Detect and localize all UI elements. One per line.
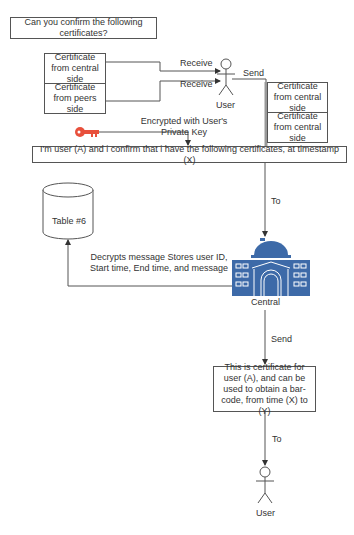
central-building-icon [232, 238, 310, 296]
bottom-user-label: User [256, 508, 275, 519]
certificate-label: Certificate from central side [268, 81, 327, 114]
top-user-label: User [216, 100, 235, 111]
send-label-top: Send [243, 68, 264, 79]
certificate-text: This is certificate for user (A), and ca… [217, 362, 312, 417]
left-certificate-central: Certificate from central side [44, 53, 106, 84]
certificate-label: Certificate from central side [268, 111, 327, 144]
message-text: I'm user (A) and i confirm that i have t… [33, 144, 346, 166]
confirmation-message-box: I'm user (A) and i confirm that i have t… [32, 146, 347, 163]
question-text: Can you confirm the following certificat… [21, 17, 146, 39]
issued-certificate-box: This is certificate for user (A), and ca… [213, 366, 316, 412]
to-user-label: To [272, 434, 282, 445]
to-central-label: To [271, 196, 281, 207]
receive-label-1: Receive [180, 58, 213, 69]
database-label: Table #6 [52, 216, 86, 227]
certificate-label: Certificate from peers side [45, 82, 105, 115]
receive-label-2: Receive [180, 79, 213, 90]
user-actor-icon [253, 466, 277, 506]
certificate-label: Certificate from central side [45, 52, 105, 85]
left-certificate-peers: Certificate from peers side [44, 83, 106, 114]
database-icon [42, 182, 94, 240]
right-certificate-1: Certificate from central side [267, 82, 328, 113]
question-box: Can you confirm the following certificat… [10, 17, 157, 39]
right-certificate-2: Certificate from central side [267, 112, 328, 143]
send-label-bottom: Send [271, 334, 292, 345]
user-actor-icon [214, 58, 238, 98]
encrypted-label: Encrypted with User's Private Key [134, 116, 234, 138]
decrypts-label: Decrypts message Stores user ID, Start t… [84, 252, 234, 274]
key-icon [74, 126, 100, 138]
central-label: Central [251, 297, 280, 308]
